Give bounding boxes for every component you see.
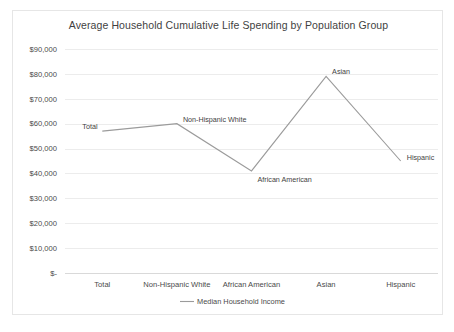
- y-axis-tick-label: $-: [50, 269, 57, 278]
- data-point-label: African American: [258, 175, 312, 184]
- y-axis-tick-label: $70,000: [30, 95, 57, 104]
- line-chart-plot: $-$10,000$20,000$30,000$40,000$50,000$60…: [13, 11, 444, 316]
- x-axis-tick-label: Total: [94, 280, 110, 289]
- y-axis-tick-labels: $-$10,000$20,000$30,000$40,000$50,000$60…: [30, 45, 58, 278]
- y-axis-tick-label: $50,000: [30, 144, 57, 153]
- x-axis-tick-label: African American: [223, 280, 280, 289]
- y-axis-tick-label: $60,000: [30, 119, 57, 128]
- y-axis-tick-label: $30,000: [30, 194, 57, 203]
- data-point-labels: TotalNon-Hispanic WhiteAfrican AmericanA…: [82, 67, 434, 184]
- x-axis-tick-label: Non-Hispanic White: [143, 280, 210, 289]
- x-axis-tick-label: Hispanic: [386, 280, 415, 289]
- y-axis-tick-label: $20,000: [30, 219, 57, 228]
- x-axis-tick-label: Asian: [317, 280, 336, 289]
- data-point-label: Non-Hispanic White: [183, 115, 247, 124]
- chart-figure: Average Household Cumulative Life Spendi…: [12, 10, 443, 315]
- data-point-label: Total: [82, 122, 98, 131]
- y-axis-tick-label: $10,000: [30, 244, 57, 253]
- x-axis-tick-labels: TotalNon-Hispanic WhiteAfrican AmericanA…: [94, 280, 415, 289]
- y-axis-tick-label: $80,000: [30, 70, 57, 79]
- chart-legend: Median Household Income: [180, 297, 285, 306]
- legend-entry-label: Median Household Income: [197, 297, 285, 306]
- y-axis-tick-label: $40,000: [30, 169, 57, 178]
- gridlines: [65, 50, 438, 274]
- data-point-label: Asian: [332, 67, 350, 76]
- y-axis-tick-label: $90,000: [30, 45, 57, 54]
- data-point-label: Hispanic: [407, 153, 435, 162]
